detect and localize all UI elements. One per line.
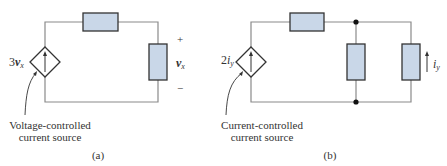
panel-label-b: (b) bbox=[324, 149, 337, 162]
resistor-top-b bbox=[290, 13, 324, 31]
wire-top-right-a bbox=[118, 22, 158, 44]
current-label: iy bbox=[433, 57, 440, 72]
caption-b-line2: current source bbox=[231, 131, 294, 143]
resistor-top-a bbox=[83, 13, 118, 31]
pointer-arrow-a bbox=[25, 73, 36, 115]
wire-bottom-a bbox=[45, 77, 158, 102]
circuit-b: 2iy iy Current-controlled current source… bbox=[221, 13, 440, 162]
panel-label-a: (a) bbox=[92, 149, 105, 162]
wire-left-b bbox=[251, 22, 290, 47]
resistor-middle-b bbox=[347, 44, 365, 80]
minus-sign: − bbox=[177, 82, 183, 94]
node-top-b bbox=[353, 19, 358, 24]
circuit-diagrams: 3vx + vx − Voltage-controlled current so… bbox=[0, 0, 447, 166]
caption-a-line2: current source bbox=[19, 131, 82, 143]
circuit-a: 3vx + vx − Voltage-controlled current so… bbox=[9, 13, 185, 162]
resistor-right-a bbox=[149, 44, 167, 80]
node-bottom-b bbox=[353, 99, 358, 104]
current-arrow-icon bbox=[425, 51, 429, 72]
plus-sign: + bbox=[177, 33, 183, 45]
resistor-right-b bbox=[402, 44, 420, 80]
wire-top-b bbox=[324, 22, 411, 44]
wire-loop-a bbox=[45, 22, 83, 47]
wire-bottom-b bbox=[251, 77, 411, 102]
source-label-b: 2iy bbox=[221, 53, 234, 68]
voltage-label: vx bbox=[176, 56, 185, 71]
pointer-arrow-b bbox=[226, 73, 242, 115]
caption-b-line1: Current-controlled bbox=[221, 119, 303, 131]
caption-a-line1: Voltage-controlled bbox=[9, 119, 91, 131]
source-label-a: 3vx bbox=[9, 55, 24, 70]
